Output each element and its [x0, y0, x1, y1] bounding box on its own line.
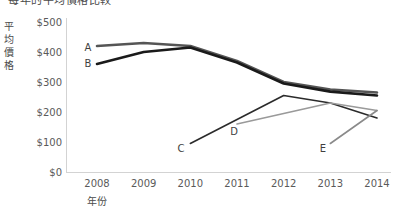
- series-line-e: [330, 111, 377, 144]
- series-label-d: D: [230, 126, 238, 137]
- series-label-c: C: [178, 143, 185, 154]
- plot-area: [0, 0, 399, 220]
- series-line-a: [97, 43, 377, 93]
- series-line-d: [237, 103, 377, 124]
- line-chart: 每年的平均價格比較 平均價格 $0$100$200$300$400$500 20…: [0, 0, 399, 220]
- series-label-b: B: [85, 58, 92, 69]
- series-line-b: [97, 48, 377, 96]
- series-label-e: E: [320, 143, 326, 154]
- series-label-a: A: [85, 42, 92, 53]
- series-line-c: [190, 96, 377, 144]
